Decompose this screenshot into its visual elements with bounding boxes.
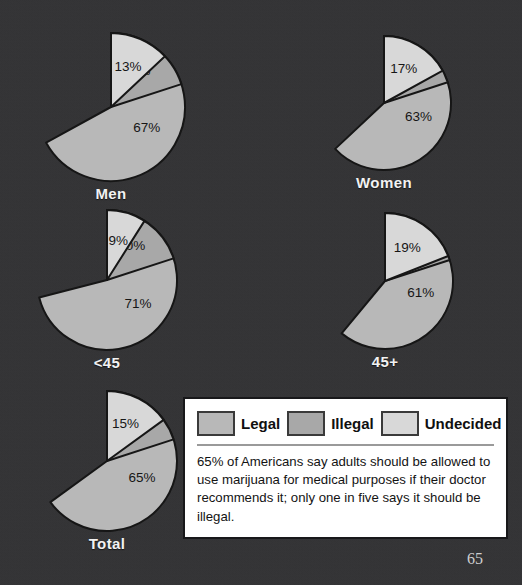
pie-slice-label: 63% xyxy=(405,109,432,124)
pie-chart-label: Women xyxy=(314,174,454,191)
caption-text: 65% of Americans say adults should be al… xyxy=(197,453,494,526)
legend-item-undecided: Undecided xyxy=(381,411,502,436)
pie-chart-45: 61%20%19%45+ xyxy=(314,210,456,370)
legend-label-illegal: Illegal xyxy=(331,415,374,432)
pie-chart-total: 65%20%15%Total xyxy=(34,388,180,552)
legend-swatch-legal xyxy=(197,411,235,436)
legend-swatch-undecided xyxy=(381,411,419,436)
pie-chart-label: Men xyxy=(34,185,188,202)
legend-caption-card: Legal Illegal Undecided 65% of Americans… xyxy=(183,397,508,539)
pie-slice-label: 15% xyxy=(112,416,139,431)
legend-label-legal: Legal xyxy=(241,415,280,432)
page-canvas: 67%20%13%Men63%20%17%Women71%20%9%<4561%… xyxy=(0,0,522,585)
pie-slice-label: 61% xyxy=(407,285,434,300)
legend-item-illegal: Illegal xyxy=(287,411,374,436)
pie-slice-label: 71% xyxy=(124,296,151,311)
pie-chart-women: 63%20%17%Women xyxy=(314,33,454,191)
pie-svg: 65%20%15% xyxy=(34,388,180,534)
pie-slice-label: 65% xyxy=(128,470,155,485)
pie-slice-label: 13% xyxy=(115,59,142,74)
pie-chart-label: 45+ xyxy=(314,353,456,370)
pie-slice-label: 19% xyxy=(394,240,421,255)
pie-chart-men: 67%20%13%Men xyxy=(34,30,188,202)
pie-slice-label: 17% xyxy=(390,61,417,76)
pie-chart-45: 71%20%9%<45 xyxy=(34,207,180,371)
pie-chart-label: <45 xyxy=(34,354,180,371)
legend-swatch-illegal xyxy=(287,411,325,436)
legend-label-undecided: Undecided xyxy=(425,415,502,432)
pie-slice-label: 67% xyxy=(133,120,160,135)
page-number: 65 xyxy=(455,550,495,568)
pie-svg: 63%20%17% xyxy=(314,33,454,173)
pie-slice-label: 9% xyxy=(109,233,129,248)
pie-svg: 71%20%9% xyxy=(34,207,180,353)
legend-divider xyxy=(197,444,494,446)
legend-item-legal: Legal xyxy=(197,411,280,436)
pie-svg: 61%20%19% xyxy=(314,210,456,352)
legend-row: Legal Illegal Undecided xyxy=(197,408,494,444)
pie-svg: 67%20%13% xyxy=(34,30,188,184)
pie-chart-label: Total xyxy=(34,535,180,552)
